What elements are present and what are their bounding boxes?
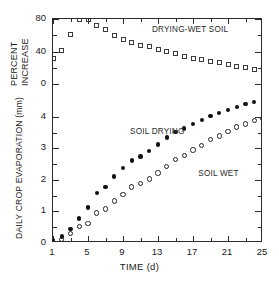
data-point-open-circle — [59, 237, 64, 241]
x-tick-label: 5 — [77, 246, 97, 257]
x-axis-minor-tick — [141, 19, 142, 22]
x-axis-minor-tick — [71, 238, 72, 241]
x-tick-label: 21 — [217, 246, 237, 257]
x-tick-label: 25 — [252, 246, 272, 257]
x-axis-minor-tick — [71, 19, 72, 22]
data-point-open-square — [53, 56, 56, 61]
y-axis-major-tick — [255, 211, 261, 212]
x-axis-minor-tick — [106, 19, 107, 22]
data-point-filled-circle — [95, 191, 99, 195]
data-point-open-square — [182, 54, 187, 59]
y-axis-minor-tick — [258, 164, 262, 165]
y-axis-major-tick — [255, 148, 261, 149]
data-point-open-circle — [199, 143, 204, 148]
data-point-open-square — [86, 19, 91, 22]
x-axis-major-tick — [123, 236, 124, 241]
data-point-open-circle — [252, 118, 257, 123]
data-point-open-circle — [164, 164, 169, 169]
data-point-filled-circle — [208, 114, 212, 118]
y-axis-major-tick — [255, 52, 261, 53]
data-point-open-square — [94, 23, 99, 28]
data-point-open-square — [103, 27, 108, 32]
y-axis-minor-tick — [53, 68, 57, 69]
x-axis-minor-tick — [211, 238, 212, 241]
data-point-filled-circle — [252, 100, 256, 104]
x-axis-minor-tick — [246, 238, 247, 241]
y-axis-minor-tick — [53, 164, 57, 165]
x-axis-major-tick — [158, 19, 159, 24]
x-axis-major-tick — [228, 236, 229, 241]
data-point-open-square — [138, 43, 143, 48]
data-point-open-square — [121, 37, 126, 42]
x-axis-minor-tick — [176, 238, 177, 241]
y-axis-minor-tick — [258, 227, 262, 228]
y-axis-major-tick — [53, 117, 59, 118]
x-axis-minor-tick — [246, 19, 247, 22]
series-label-drying-wet-soil: DRYING-WET SOIL — [152, 25, 228, 34]
data-point-filled-circle — [226, 108, 230, 112]
data-point-open-circle — [112, 198, 117, 203]
x-axis-title: TIME (d) — [0, 261, 279, 272]
y-tick-label-percent: 80 — [26, 12, 46, 23]
x-axis-major-tick — [123, 19, 124, 24]
y-axis-major-tick — [53, 180, 59, 181]
plot-inner: DRYING-WET SOILSOIL DRYINGSOIL WET — [53, 19, 261, 241]
data-point-filled-circle — [112, 174, 116, 178]
y-axis-minor-tick — [53, 196, 57, 197]
y-tick-label-mm: 3 — [26, 141, 46, 152]
x-tick-label: 1 — [42, 246, 62, 257]
y-tick-label-percent: 40 — [26, 45, 46, 56]
data-point-open-circle — [147, 176, 152, 181]
data-point-open-square — [243, 65, 248, 70]
data-point-open-square — [129, 40, 134, 45]
data-point-open-square — [191, 56, 196, 61]
data-point-open-circle — [155, 170, 160, 175]
data-point-open-square — [77, 19, 82, 22]
data-point-filled-circle — [86, 205, 90, 209]
data-point-open-circle — [234, 124, 239, 129]
data-point-open-circle — [173, 157, 178, 162]
data-point-open-square — [234, 64, 239, 69]
data-point-open-square — [173, 51, 178, 56]
data-point-open-square — [226, 62, 231, 67]
chart-figure: PERCENT INCREASE DAILY CROP EVAPORATION … — [0, 0, 279, 283]
data-point-open-circle — [190, 147, 195, 152]
data-point-open-circle — [129, 184, 134, 189]
data-point-open-circle — [182, 153, 187, 158]
x-axis-major-tick — [53, 19, 54, 24]
data-point-open-square — [261, 68, 262, 73]
data-point-filled-circle — [217, 111, 221, 115]
data-point-open-circle — [217, 133, 222, 138]
x-axis-major-tick — [193, 236, 194, 241]
data-point-open-circle — [138, 181, 143, 186]
data-point-open-circle — [94, 210, 99, 215]
data-point-open-square — [59, 48, 64, 53]
y-axis-minor-tick — [258, 133, 262, 134]
y-axis-major-tick — [53, 148, 59, 149]
data-point-open-square — [217, 60, 222, 65]
data-point-filled-circle — [77, 216, 81, 220]
data-point-filled-circle — [156, 142, 160, 146]
series-label-soil-drying: SOIL DRYING — [130, 127, 185, 136]
x-axis-major-tick — [228, 19, 229, 24]
y-axis-major-tick — [255, 180, 261, 181]
x-axis-minor-tick — [106, 238, 107, 241]
x-axis-major-tick — [88, 236, 89, 241]
primary-y-axis-title: DAILY CROP EVAPORATION (mm) — [14, 97, 24, 239]
data-point-filled-circle — [235, 105, 239, 109]
y-tick-label-mm: 4 — [26, 110, 46, 121]
data-point-open-circle — [103, 206, 108, 211]
data-point-open-square — [208, 59, 213, 64]
y-axis-minor-tick — [53, 35, 57, 36]
data-point-filled-circle — [130, 158, 134, 162]
y-axis-minor-tick — [258, 196, 262, 197]
data-point-open-circle — [68, 231, 73, 236]
data-point-filled-circle — [121, 166, 125, 170]
y-axis-major-tick — [255, 19, 261, 20]
data-point-open-circle — [85, 221, 90, 226]
y-tick-label-percent: 0 — [26, 77, 46, 88]
data-point-open-square — [112, 33, 117, 38]
data-point-open-circle — [208, 137, 213, 142]
x-axis-minor-tick — [141, 238, 142, 241]
y-tick-label-mm: 2 — [26, 173, 46, 184]
